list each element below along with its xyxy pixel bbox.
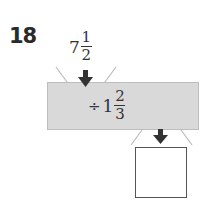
- rule-fraction: 2 3: [114, 89, 125, 122]
- rule-whole: 1: [103, 96, 114, 116]
- rule-numerator: 2: [115, 89, 125, 104]
- down-arrow-icon-input: [78, 70, 93, 87]
- answer-box[interactable]: [135, 147, 187, 198]
- rule-expression: ÷ 1 2 3: [88, 89, 125, 122]
- down-arrow-icon-output: [153, 129, 168, 144]
- rule-denominator: 3: [115, 107, 125, 122]
- divide-operator: ÷: [88, 97, 101, 115]
